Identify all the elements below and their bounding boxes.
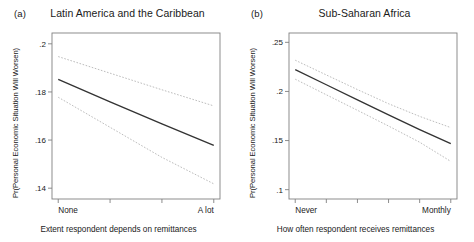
panel-a-x-axis-label: Extent respondent depends on remittances xyxy=(0,225,237,234)
x-tick-label: Monthly xyxy=(422,206,452,215)
figure-canvas: (a) Latin America and the Caribbean Pr(P… xyxy=(0,0,474,242)
panel-latin-america: (a) Latin America and the Caribbean Pr(P… xyxy=(0,0,237,242)
y-tick-label: .1 xyxy=(276,186,283,195)
series-line-ci xyxy=(295,60,451,127)
plot-frame xyxy=(289,33,457,199)
series-line-main xyxy=(295,70,451,144)
panel-sub-saharan-africa: (b) Sub-Saharan Africa .1.15.2.25NeverMo… xyxy=(237,0,474,242)
panel-b-x-axis-label: How often respondent receives remittance… xyxy=(237,225,474,234)
plot-frame xyxy=(52,33,220,199)
y-tick-label: .2 xyxy=(39,40,46,49)
y-tick-label: .16 xyxy=(35,136,47,145)
series-line-ci xyxy=(58,97,214,184)
panel-a-plot: .14.16.18.2NoneA lot xyxy=(0,0,237,242)
series-line-main xyxy=(58,79,214,145)
y-tick-label: .2 xyxy=(276,87,283,96)
panel-b-y-axis-label: Pr(Personal Economic Situation Will Wors… xyxy=(248,48,257,198)
y-tick-label: .14 xyxy=(35,184,47,193)
series-line-ci xyxy=(295,79,451,161)
series-line-ci xyxy=(58,57,214,106)
x-tick-label: None xyxy=(58,206,78,215)
x-tick-label: Never xyxy=(295,206,317,215)
y-tick-label: .15 xyxy=(272,136,284,145)
y-tick-label: .18 xyxy=(35,88,47,97)
panel-b-plot: .1.15.2.25NeverMonthly xyxy=(237,0,474,242)
y-tick-label: .25 xyxy=(272,38,284,47)
x-tick-label: A lot xyxy=(198,206,215,215)
